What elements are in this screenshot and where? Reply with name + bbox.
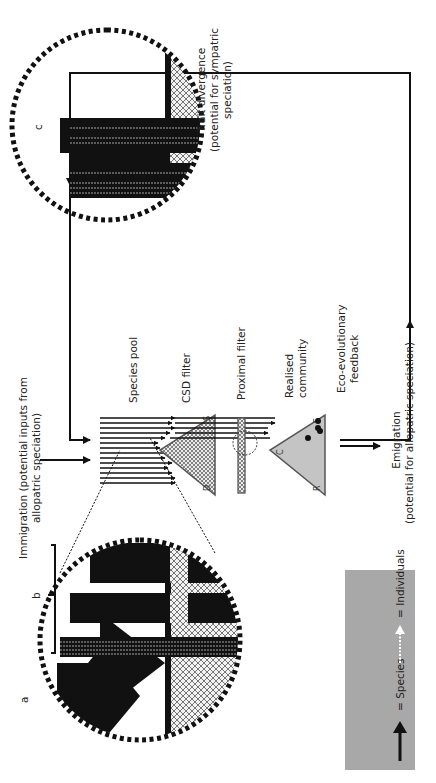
species-pool-label: Species pool [127,337,139,403]
immigration-label-line1: Immigration (potential inputs from [17,377,29,559]
realised-vertex-r: R [313,485,322,491]
realised-vertex-c: C [276,449,285,455]
legend-species-label: = Species [394,658,406,711]
feedback-label-line2: feedback [348,334,360,383]
feedback-label-line1: Eco-evolutionary [335,304,347,393]
realised-community-label-line1: Realised [283,354,295,398]
panel-label-a: a [18,697,30,703]
panel-label-b: b [30,592,42,599]
panel-label-c: c [32,124,44,130]
emigration-label-line1: Emigration [390,411,402,468]
diagram-rotated-stage: = Species = Individuals a b [0,0,436,783]
realised-community-label-line2: community [296,339,308,398]
trait-divergence-line3: speciation) [221,61,233,119]
realised-community-triangle: C S R [270,415,325,495]
zoom-circle-ab [40,533,280,744]
trait-divergence-line2: (potential for sympatric [208,28,220,152]
legend-individuals-label: = Individuals [394,549,406,618]
proximal-filter-bar [233,418,257,493]
csd-vertex-d: D [203,485,212,491]
immigration-label-line2: allopatric speciation) [30,413,42,523]
csd-filter-label: CSD filter [180,352,192,403]
legend: = Species = Individuals [345,549,415,770]
proximal-filter-label: Proximal filter [235,327,247,400]
trait-divergence-line1: Trait divergence [195,48,207,133]
emigration-label-line2: (potential for allopatric speciation) [403,342,415,524]
